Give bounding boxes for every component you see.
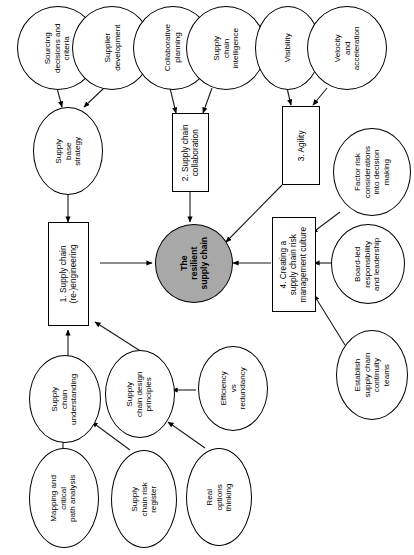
node-label: Efficiency vs redundancy [219,367,248,409]
node-establish-teams[interactable]: Establish supply chain continuity teams [336,330,408,420]
node-board-led[interactable]: Board-led responsibility and leadership [331,224,405,304]
node-supply-chain-risk-register[interactable]: Supply chain risk register [111,450,177,548]
node-label: Real options thinking [205,483,234,511]
core-label: The resilient supply chain [179,237,209,290]
edge-velocity-to-pillar3 [313,88,327,105]
diagram-canvas: Sourcing decisions and criteria Supplier… [0,0,414,555]
node-real-options-thinking[interactable]: Real options thinking [186,448,252,546]
node-label: Supply chain design principles [126,371,155,416]
edge-real-options-to-design-principles [168,422,205,448]
node-supply-base-strategy[interactable]: Supply base strategy [33,107,103,195]
pillar-3-agility[interactable]: 3. Agility [282,106,320,185]
node-label: Collaborative planning [163,24,182,71]
node-label: Board-led responsibility and leadership [354,237,383,290]
pillar-2-supply-chain-collaboration[interactable]: 2. Supply chain collaboration [172,113,209,192]
node-label: Velocity and acceleration [333,26,362,70]
core-node-resilient-supply-chain[interactable]: The resilient supply chain [155,224,233,303]
node-label: Sourcing decisions and criteria [44,23,73,73]
edge-supplier-dev-to-base [84,88,104,107]
pillar-label: 2. Supply chain collaboration [181,124,201,181]
node-label: Supply chain risk register [130,482,159,516]
node-label: Factor risk considerations into decision… [353,146,391,198]
node-label: Mapping and critical path analysis [50,474,79,521]
node-efficiency-vs-redundancy[interactable]: Efficiency vs redundancy [198,346,268,431]
pillar-label: 3. Agility [296,130,306,161]
pillar-label: 4. Creating a supply chain risk manageme… [279,227,308,303]
edge-visibility-to-pillar3 [287,88,291,105]
pillar-label: 1. Supply chain (re-)engineering [59,244,79,303]
node-supply-chain-intelligence[interactable]: Supply chain intelligence [186,6,266,90]
edge-establish-teams-to-pillar4 [314,295,345,345]
node-label: Visibility [283,33,293,62]
node-label: Supply chain intelligence [212,28,241,69]
node-label: Supply chain understanding [51,373,80,424]
node-label: Supply base strategy [54,137,83,166]
node-label: Establish supply chain continuity teams [353,353,391,398]
node-velocity-acceleration[interactable]: Velocity and acceleration [307,6,387,90]
edge-sc-intelligence-to-pillar2 [203,88,212,113]
edge-design-principles-to-pillar1 [95,322,142,352]
edge-collab-planning-to-pillar2 [170,88,176,113]
node-factor-risk[interactable]: Factor risk considerations into decision… [333,128,411,216]
pillar-1-supply-chain-reengineering[interactable]: 1. Supply chain (re-)engineering [48,222,89,326]
edge-sourcing-to-base [57,88,62,107]
node-supply-chain-understanding[interactable]: Supply chain understanding [29,355,101,443]
edge-factor-risk-to-pillar4 [312,212,340,233]
node-label: Supplier development [102,25,121,71]
node-supply-chain-design-principles[interactable]: Supply chain design principles [105,350,175,438]
node-mapping-critical-path[interactable]: Mapping and critical path analysis [29,448,99,548]
pillar-4-risk-management-culture[interactable]: 4. Creating a supply chain risk manageme… [272,217,316,312]
